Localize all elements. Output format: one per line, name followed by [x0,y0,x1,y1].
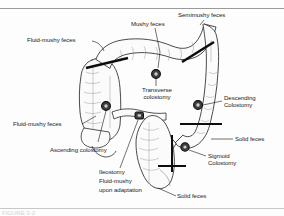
label-ileostomy-line3: upon adaptation [99,186,142,193]
sigmoid-colostomy-stoma [181,143,189,151]
leader-ileostomy [120,120,138,168]
figure-caption: FIGURE 3-2 [2,210,35,216]
label-sigmoid-colostomy-line2: Colostomy [208,159,236,166]
leader-sigmoid-colostomy [189,150,206,156]
ileostomy-stoma [135,112,144,119]
label-fluid-mushy-feces-left: Fluid-mushy feces [13,120,62,127]
label-fluid-mushy-feces-top: Fluid-mushy feces [27,36,76,43]
ascending-colostomy-stoma [102,102,111,111]
label-semimushy-feces: Semimushy feces [178,11,225,18]
label-ileostomy-line1: Ileostomy [99,168,125,175]
label-ascending-colostomy: Ascending colostomy [50,146,107,153]
leader-solid-feces-bottom [158,188,176,196]
descending-colostomy-stoma [194,101,203,110]
label-transverse-colostomy-line2: colostomy [134,93,180,100]
label-mushy-feces: Mushy feces [131,20,165,27]
ileal-pouch [136,116,174,189]
figure-canvas: Fluid-mushy feces Mushy feces Semimushy … [0,0,284,216]
label-solid-feces-bottom: Solid feces [177,192,206,199]
label-descending-colostomy-line2: Colostomy [224,101,252,108]
transverse-colostomy-stoma [152,70,161,79]
label-ileostomy-line2: Fluid-mushy [99,177,132,184]
label-solid-feces-right: Solid feces [235,135,264,142]
